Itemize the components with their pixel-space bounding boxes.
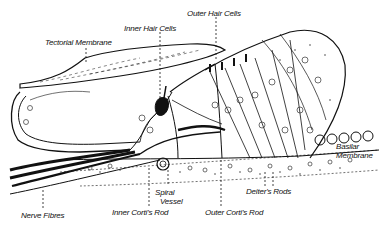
label-basilar: Basilar xyxy=(336,142,359,151)
label-outer-hair-cells: Outer Hair Cells xyxy=(187,9,241,18)
organ-of-corti-diagram: Tectorial Membrane Inner Hair Cells Oute… xyxy=(0,0,379,227)
label-deiters-rods: Deiter's Rods xyxy=(246,187,291,196)
diagram-drawing xyxy=(0,0,379,227)
label-inner-hair-cells: Inner Hair Cells xyxy=(124,24,176,33)
label-vessel: Vessel xyxy=(160,197,183,206)
label-inner-cortis-rod: Inner Corti's Rod xyxy=(112,208,168,217)
label-membrane: Membrane xyxy=(336,151,373,160)
label-nerve-fibres: Nerve Fibres xyxy=(21,211,64,220)
label-spiral: Spiral xyxy=(155,188,174,197)
label-outer-cortis-rod: Outer Corti's Rod xyxy=(205,208,263,217)
label-tectorial-membrane: Tectorial Membrane xyxy=(45,38,112,47)
